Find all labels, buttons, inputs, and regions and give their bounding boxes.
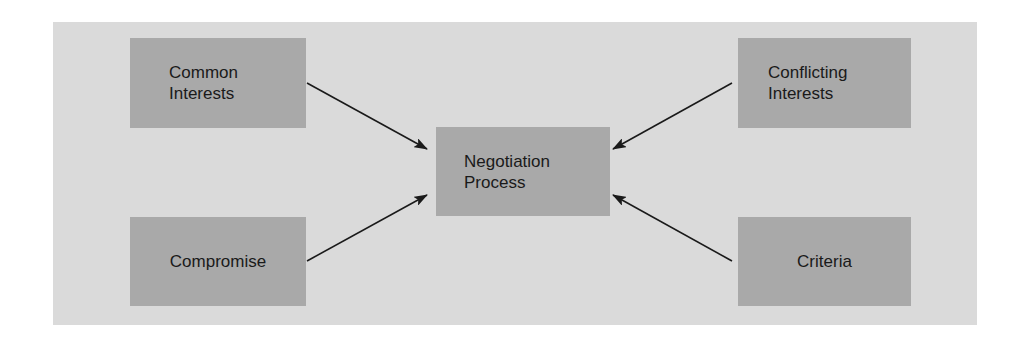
node-label: Common Interests bbox=[169, 62, 238, 104]
node-compromise: Compromise bbox=[130, 217, 306, 306]
node-label: Negotiation Process bbox=[464, 151, 550, 193]
node-label: Compromise bbox=[170, 251, 266, 272]
node-label: Criteria bbox=[797, 251, 852, 272]
node-conflicting-interests: Conflicting Interests bbox=[738, 38, 911, 128]
node-criteria: Criteria bbox=[738, 217, 911, 306]
node-common-interests: Common Interests bbox=[130, 38, 306, 128]
node-negotiation-process: Negotiation Process bbox=[436, 127, 610, 216]
node-label: Conflicting Interests bbox=[768, 62, 847, 104]
